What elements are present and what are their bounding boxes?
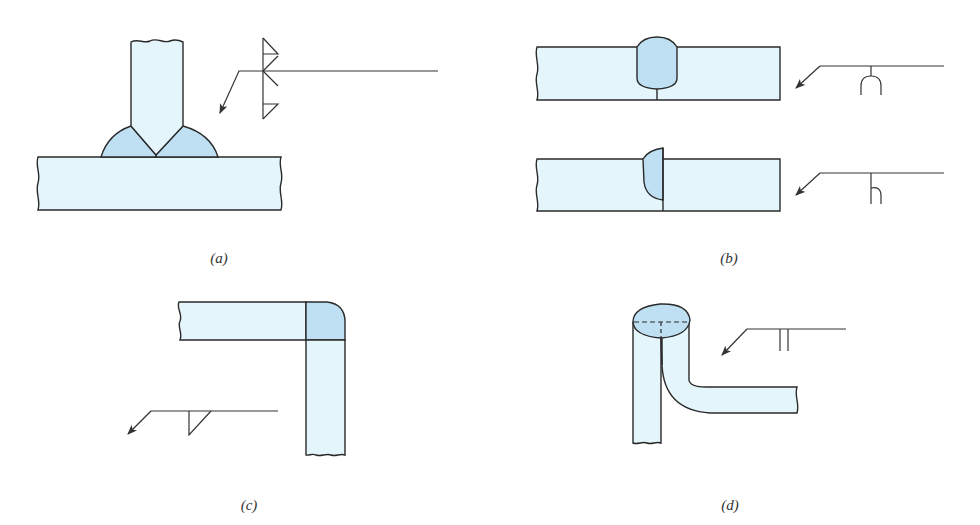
panel-c-horizontal-member	[178, 302, 306, 340]
panel-a-base-plate	[37, 157, 282, 210]
panel-d-label: (d)	[721, 497, 739, 514]
panel-b-butt-joints	[536, 37, 944, 211]
panel-c-vertical-member	[306, 340, 345, 456]
panel-d-flare-symbol	[722, 329, 846, 355]
panel-b-u-groove-weld	[637, 37, 677, 89]
panel-d-bent-bar	[662, 322, 798, 413]
weld-joint-figure	[0, 0, 980, 525]
panel-a-label: (a)	[210, 250, 228, 267]
panel-b-j-groove-symbol	[796, 173, 944, 204]
panel-b-label: (b)	[720, 250, 738, 267]
panel-d-flare-joint	[633, 304, 846, 444]
panel-d-straight-bar	[633, 322, 661, 444]
panel-c-label: (c)	[241, 497, 258, 514]
panel-c-corner-joint	[128, 302, 345, 456]
panel-c-fillet-symbol	[128, 411, 278, 435]
panel-b-u-groove-symbol	[796, 66, 944, 95]
panel-c-corner-weld	[306, 302, 345, 340]
panel-a-t-joint	[37, 38, 438, 210]
panel-a-weld-symbol	[220, 38, 438, 119]
